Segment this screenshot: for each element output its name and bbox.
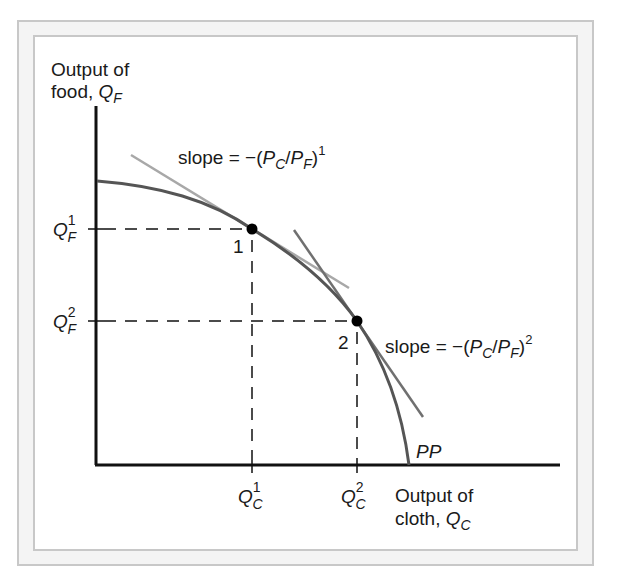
y-tick-label-qf2: Q2F	[53, 304, 78, 337]
y-tick-label-qf1: Q1F	[53, 212, 78, 245]
x-axis-label-line2: cloth, QC	[395, 508, 471, 533]
ppf-diagram: 1 2 Output of food, QF Q1F Q2F Q1C Q2C O…	[0, 0, 618, 578]
y-axis-label-line2: food, QF	[51, 81, 123, 106]
slope-label-2: slope = −(PC/PF)2	[385, 332, 532, 361]
curve-label-pp: PP	[416, 441, 442, 462]
x-tick-label-qc1: Q1C	[238, 479, 264, 512]
point-2-label: 2	[338, 332, 349, 353]
x-axis-label-line1: Output of	[395, 485, 474, 506]
point-1-marker	[247, 224, 258, 235]
x-tick-label-qc2: Q2C	[341, 479, 367, 512]
y-axis-label-line1: Output of	[51, 59, 130, 80]
point-1-label: 1	[233, 236, 244, 257]
point-2-marker	[352, 316, 363, 327]
slope-label-1: slope = −(PC/PF)1	[178, 143, 325, 172]
